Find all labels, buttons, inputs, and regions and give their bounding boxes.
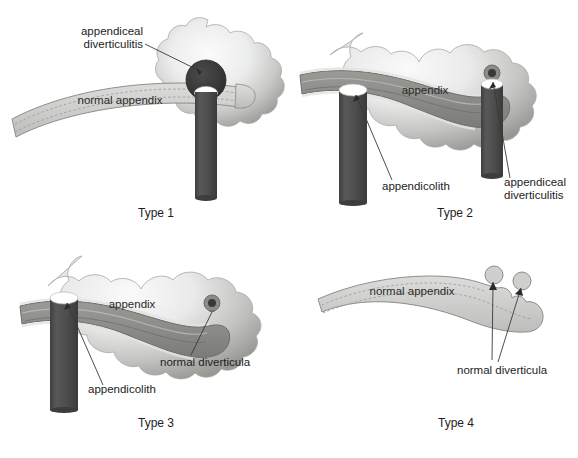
label-normal-diverticula: normal diverticula <box>160 356 251 368</box>
appendicolith-cylinder-right <box>481 79 503 179</box>
footer-caption-strip <box>0 446 578 458</box>
label-normal-appendix: normal appendix <box>369 285 454 297</box>
type-label-4: Type 4 <box>438 416 474 430</box>
label-appendicolith: appendicolith <box>382 180 450 192</box>
label-normal-diverticula: normal diverticula <box>457 364 548 376</box>
label-appendix: appendix <box>109 298 156 310</box>
appendicolith-cylinder-left <box>339 84 367 206</box>
diverticulum-bud-1 <box>485 266 503 284</box>
diverticulum-bud-2 <box>513 272 531 290</box>
figure-canvas: appendiceal diverticulitis normal append… <box>0 0 578 458</box>
type-label-3: Type 3 <box>138 416 174 430</box>
label-appendiceal-diverticulitis-line1: appendiceal <box>504 176 566 188</box>
label-appendiceal-diverticulitis-line1: appendiceal <box>81 25 143 37</box>
label-normal-appendix: normal appendix <box>77 94 162 106</box>
label-appendix: appendix <box>402 84 449 96</box>
type-label-2: Type 2 <box>437 206 473 220</box>
label-appendicolith: appendicolith <box>88 383 156 395</box>
label-appendiceal-diverticulitis-line2: diverticulitis <box>84 38 144 50</box>
appendiceal-diverticulitis-figure: appendiceal diverticulitis normal append… <box>0 0 578 458</box>
appendicolith-cylinder <box>50 292 78 413</box>
appendicolith-cylinder <box>195 92 217 201</box>
type-label-1: Type 1 <box>138 206 174 220</box>
label-appendiceal-diverticulitis-line2: diverticulitis <box>504 189 564 201</box>
